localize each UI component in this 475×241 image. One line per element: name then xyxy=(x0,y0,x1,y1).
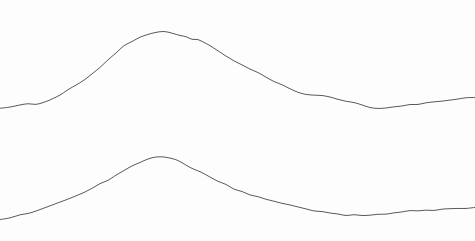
chart-background xyxy=(0,0,475,241)
chart-figure xyxy=(0,0,475,241)
chart-canvas xyxy=(0,0,475,241)
